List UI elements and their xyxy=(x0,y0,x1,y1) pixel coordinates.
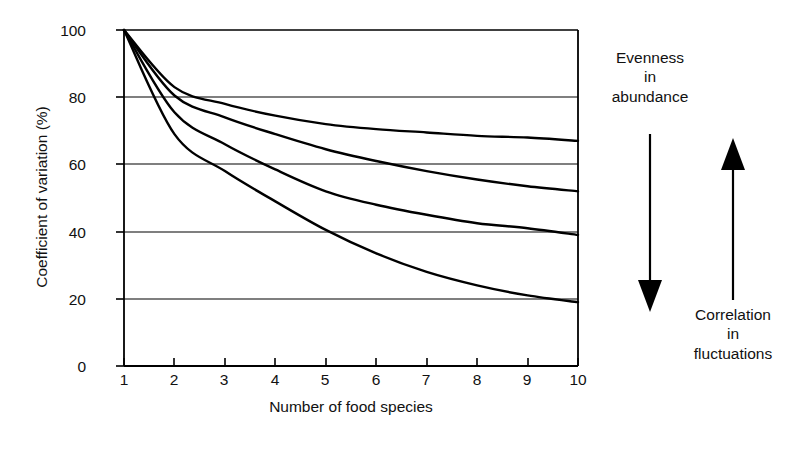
plot-canvas xyxy=(0,0,799,450)
gridlines xyxy=(124,30,578,299)
y-axis-ticks xyxy=(116,30,124,366)
data-line-curve-2 xyxy=(124,30,578,191)
data-line-curve-3 xyxy=(124,30,578,235)
data-line-curve-4 xyxy=(124,30,578,302)
x-axis-ticks xyxy=(124,358,578,366)
data-series-group xyxy=(124,30,578,302)
correlation-arrow-up xyxy=(721,138,745,300)
data-line-curve-1 xyxy=(124,30,578,141)
chart-figure: Coefficient of variation (%) Number of f… xyxy=(0,0,799,450)
evenness-arrow-down xyxy=(638,134,662,312)
